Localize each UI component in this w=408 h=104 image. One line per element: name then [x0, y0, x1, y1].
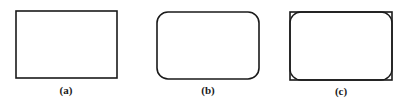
outer-rectangle-c: [290, 12, 392, 80]
rectangle-a: [16, 11, 117, 78]
figure-label-b: (b): [201, 84, 214, 96]
inner-rounded-rectangle-c: [290, 12, 392, 80]
rounded-rectangle-b: [157, 12, 259, 79]
figure-label-a: (a): [60, 84, 73, 96]
figure-label-c: (c): [335, 85, 347, 97]
